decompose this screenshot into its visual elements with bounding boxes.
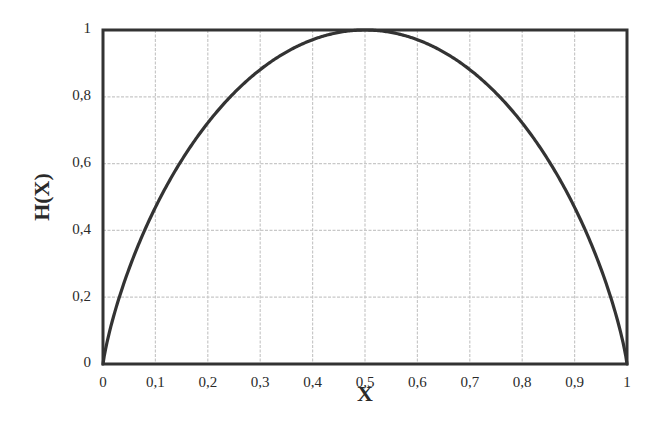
y-axis-ticks: 00,20,40,60,81 <box>72 20 91 370</box>
x-axis-title: X <box>357 381 373 406</box>
x-tick-label: 0,1 <box>146 374 165 390</box>
entropy-chart: 00,10,20,30,40,50,60,70,80,91 00,20,40,6… <box>0 0 659 441</box>
x-tick-label: 0,4 <box>303 374 322 390</box>
y-tick-label: 1 <box>84 20 92 36</box>
grid-lines <box>103 30 627 364</box>
x-tick-label: 0,8 <box>513 374 532 390</box>
x-tick-label: 0,7 <box>460 374 479 390</box>
y-tick-label: 0,6 <box>72 154 91 170</box>
x-tick-label: 1 <box>623 374 631 390</box>
x-tick-label: 0,9 <box>565 374 584 390</box>
x-tick-label: 0,6 <box>408 374 427 390</box>
x-tick-label: 0,3 <box>251 374 270 390</box>
x-tick-label: 0 <box>99 374 107 390</box>
y-tick-label: 0,4 <box>72 221 91 237</box>
y-axis-title: H(X) <box>29 173 54 221</box>
y-tick-label: 0,2 <box>72 288 91 304</box>
y-tick-label: 0 <box>84 354 92 370</box>
y-tick-label: 0,8 <box>72 87 91 103</box>
x-tick-label: 0,2 <box>198 374 217 390</box>
